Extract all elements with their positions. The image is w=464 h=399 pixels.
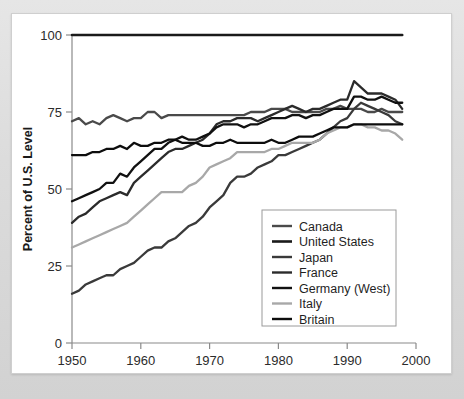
figure-card: 100 75 50 25 0 1950 1960 1970 1980 1990 … (11, 13, 452, 374)
x-tick-label-1980: 1980 (264, 353, 293, 368)
screenshot-root: 100 75 50 25 0 1950 1960 1970 1980 1990 … (0, 0, 464, 399)
line-chart: 100 75 50 25 0 1950 1960 1970 1980 1990 … (12, 14, 451, 373)
series-line-canada (72, 106, 402, 124)
y-tick-label-100: 100 (40, 28, 62, 43)
legend-label-britain[interactable]: Britain (299, 313, 334, 327)
x-tick-label-1970: 1970 (195, 353, 224, 368)
x-tick-label-1950: 1950 (58, 353, 87, 368)
y-tick-marks (66, 35, 72, 343)
chart-legend[interactable]: CanadaUnited StatesJapanFranceGermany (W… (262, 210, 396, 327)
legend-label-france[interactable]: France (299, 266, 338, 280)
legend-label-united-states[interactable]: United States (299, 235, 374, 249)
y-tick-label-75: 75 (48, 105, 62, 120)
x-tick-label-1960: 1960 (126, 353, 155, 368)
y-tick-label-0: 0 (55, 336, 62, 351)
legend-label-germany-west[interactable]: Germany (West) (299, 282, 390, 296)
y-axis-title: Percent of U.S. Level (21, 127, 35, 251)
legend-label-japan[interactable]: Japan (299, 251, 333, 265)
y-tick-labels: 100 75 50 25 0 (40, 28, 62, 351)
x-tick-label-1990: 1990 (333, 353, 362, 368)
x-tick-labels: 1950 1960 1970 1980 1990 2000 (58, 353, 431, 368)
series-line-britain (72, 124, 402, 155)
x-tick-marks (72, 343, 416, 349)
x-axis-title: Year (231, 372, 258, 373)
y-tick-label-25: 25 (48, 259, 62, 274)
legend-label-italy[interactable]: Italy (299, 297, 323, 311)
y-tick-label-50: 50 (48, 182, 62, 197)
legend-label-canada[interactable]: Canada (299, 220, 343, 234)
x-tick-label-2000: 2000 (402, 353, 431, 368)
